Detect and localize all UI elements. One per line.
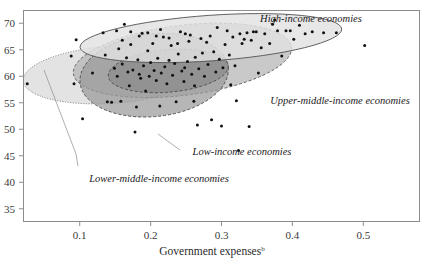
data-point — [153, 69, 156, 72]
data-point — [128, 84, 131, 87]
data-point — [199, 37, 202, 40]
data-point — [106, 100, 109, 103]
data-point — [233, 64, 236, 67]
x-axis-title: Government expensesb — [159, 245, 265, 258]
label-lower-middle-income: Lower-middle-income economies — [88, 173, 228, 184]
data-point — [221, 66, 224, 69]
data-point — [183, 66, 186, 69]
data-point — [141, 32, 144, 35]
data-point — [149, 61, 152, 64]
data-point — [231, 36, 234, 39]
data-point — [263, 32, 266, 35]
data-point — [248, 125, 251, 128]
data-point — [131, 68, 134, 71]
data-point — [168, 59, 171, 62]
data-point — [243, 38, 246, 41]
data-point — [173, 62, 176, 65]
data-point — [238, 32, 241, 35]
data-point — [138, 34, 141, 37]
data-point — [102, 31, 105, 34]
data-point — [113, 67, 116, 70]
data-point — [180, 69, 183, 72]
data-point — [121, 63, 124, 66]
plot-svg: 3540455055606570 0.10.20.30.40.5 High-in… — [0, 0, 429, 263]
data-point — [146, 31, 149, 34]
data-point — [201, 51, 204, 54]
data-point — [119, 100, 122, 103]
y-tick-label: 60 — [4, 70, 16, 82]
data-point — [196, 124, 199, 127]
data-point — [285, 29, 288, 32]
data-point — [168, 37, 171, 40]
data-point — [257, 72, 260, 75]
axis-title-group: Government expensesb — [159, 245, 265, 258]
x-tick-label: 0.3 — [215, 229, 229, 241]
data-point — [110, 101, 113, 104]
y-tick-label: 50 — [4, 123, 16, 135]
y-axis-ticks: 3540455055606570 — [4, 17, 23, 215]
data-point — [125, 56, 128, 59]
data-point — [280, 55, 283, 58]
data-point — [136, 58, 139, 61]
data-point — [146, 49, 149, 52]
data-point — [235, 99, 238, 102]
data-point — [129, 30, 132, 33]
data-point — [91, 72, 94, 75]
data-point — [214, 71, 217, 74]
data-point — [228, 54, 231, 57]
data-point — [194, 56, 197, 59]
data-point — [276, 29, 279, 32]
data-point — [170, 44, 173, 47]
data-point — [193, 84, 196, 87]
data-point — [81, 117, 84, 120]
data-point — [212, 50, 215, 53]
data-point — [241, 42, 244, 45]
data-point — [189, 33, 192, 36]
data-point — [210, 118, 213, 121]
data-point — [229, 83, 232, 86]
data-point — [184, 32, 187, 35]
data-point — [209, 34, 212, 37]
data-point — [335, 31, 338, 34]
data-point — [192, 100, 195, 103]
data-point — [220, 125, 223, 128]
data-point — [144, 90, 147, 93]
label-upper-middle-income: Upper-middle-income economies — [270, 95, 409, 106]
data-point — [298, 24, 301, 27]
data-point — [226, 29, 229, 32]
y-tick-label: 70 — [4, 17, 16, 29]
data-point — [70, 55, 73, 58]
data-point — [218, 58, 221, 61]
label-high-income: High-income economies — [259, 13, 362, 24]
label-low-income: Low-income economies — [192, 146, 292, 157]
data-point — [123, 23, 126, 26]
data-point — [160, 72, 163, 75]
data-point — [162, 36, 165, 39]
data-point — [75, 38, 78, 41]
data-point — [224, 43, 227, 46]
data-point — [205, 41, 208, 44]
y-tick-label: 55 — [4, 97, 16, 109]
x-axis-ticks: 0.10.20.30.40.5 — [73, 222, 371, 241]
data-point — [203, 75, 206, 78]
data-point — [26, 82, 29, 85]
y-tick-label: 35 — [4, 203, 16, 215]
data-point — [187, 40, 190, 43]
x-tick-label: 0.1 — [73, 229, 87, 241]
scatter-chart: 3540455055606570 0.10.20.30.40.5 High-in… — [0, 0, 429, 263]
y-tick-label: 65 — [4, 44, 16, 56]
x-tick-label: 0.5 — [356, 229, 370, 241]
data-point — [139, 77, 142, 80]
data-point — [134, 130, 137, 133]
data-point — [289, 29, 292, 32]
data-point — [138, 73, 141, 76]
data-point — [216, 26, 219, 29]
data-point — [159, 28, 162, 31]
y-tick-label: 45 — [4, 150, 16, 162]
data-point — [155, 34, 158, 37]
data-point — [126, 71, 129, 74]
data-point — [363, 44, 366, 47]
data-point — [304, 32, 307, 35]
data-point — [255, 30, 258, 33]
data-point — [292, 38, 295, 41]
